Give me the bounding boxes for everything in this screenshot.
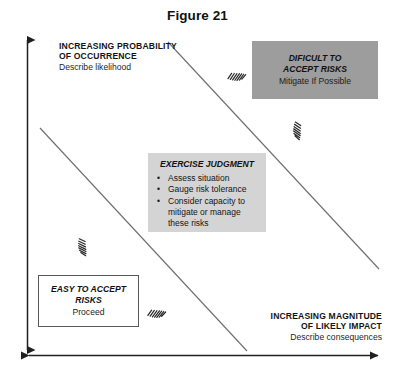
- bullet-dot-icon: •: [157, 173, 160, 184]
- zone-box-easy-to-accept: EASY TO ACCEPT RISKS Proceed: [38, 275, 139, 327]
- scribble-below-difficult: [291, 121, 305, 141]
- y-axis-label-line2: OF OCCURRENCE: [59, 51, 177, 61]
- scribble-lower-center: [147, 307, 167, 320]
- zone-judgment-list: •Assess situation•Gauge risk tolerance•C…: [155, 173, 259, 229]
- zone-difficult-title-line1: DIFICULT TO: [289, 53, 342, 64]
- list-item: •Assess situation: [155, 173, 259, 184]
- x-axis-label-line2: OF LIKELY IMPACT: [271, 321, 382, 331]
- scribble-upper-left-of-difficult: [227, 69, 247, 83]
- list-item-label: Consider capacity to: [168, 196, 245, 206]
- zone-box-difficult-to-accept: DIFICULT TO ACCEPT RISKS Mitigate If Pos…: [252, 41, 378, 99]
- x-axis-label-line1: INCREASING MAGNITUDE: [271, 311, 382, 321]
- zone-difficult-action: Mitigate If Possible: [279, 76, 351, 87]
- list-item: •Gauge risk tolerance: [155, 184, 259, 195]
- bullet-dot-icon: •: [157, 196, 160, 207]
- x-axis-description: Describe consequences: [271, 332, 382, 342]
- figure-canvas: Figure 21: [0, 0, 395, 383]
- zone-judgment-title: EXERCISE JUDGMENT: [155, 159, 259, 170]
- zone-easy-title-line1: EASY TO ACCEPT: [51, 284, 126, 295]
- scribble-mid-left: [75, 237, 91, 257]
- list-item: mitigate or manage: [155, 207, 259, 218]
- list-item-label: mitigate or manage: [168, 207, 241, 217]
- list-item: these risks: [155, 218, 259, 229]
- y-axis-label-line1: INCREASING PROBABILITY: [59, 41, 177, 51]
- list-item: •Consider capacity to: [155, 196, 259, 207]
- list-item-label: Gauge risk tolerance: [168, 184, 246, 194]
- list-item-label: these risks: [168, 218, 209, 228]
- y-axis-label: INCREASING PROBABILITY OF OCCURRENCE Des…: [59, 41, 177, 72]
- y-axis-description: Describe likelihood: [59, 62, 177, 72]
- zone-box-exercise-judgment: EXERCISE JUDGMENT •Assess situation•Gaug…: [148, 153, 266, 232]
- bullet-dot-icon: •: [157, 184, 160, 195]
- zone-easy-title-line2: RISKS: [75, 295, 101, 306]
- list-item-label: Assess situation: [168, 173, 229, 183]
- x-axis-label: INCREASING MAGNITUDE OF LIKELY IMPACT De…: [271, 311, 382, 342]
- zone-difficult-title-line2: ACCEPT RISKS: [283, 64, 347, 75]
- zone-easy-action: Proceed: [72, 307, 104, 318]
